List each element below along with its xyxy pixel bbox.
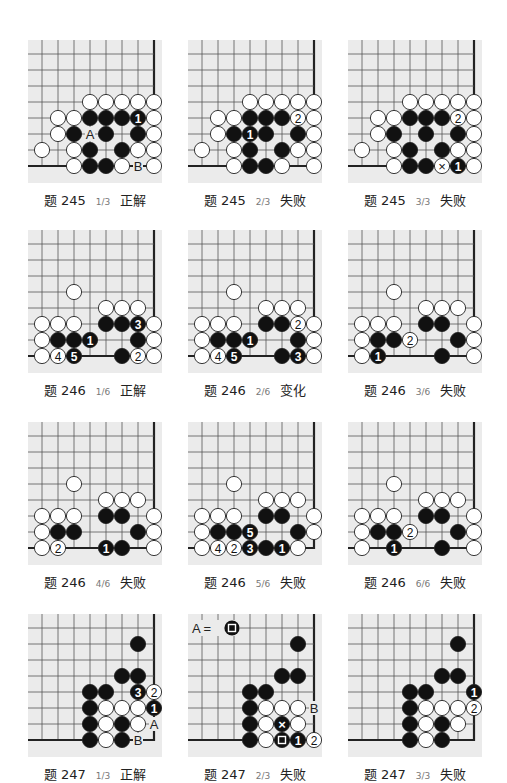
svg-text:1: 1 [87, 334, 94, 348]
white-stone [98, 492, 113, 507]
black-stone [434, 316, 449, 331]
black-stone [290, 126, 305, 141]
result-label: 正解 [120, 193, 146, 208]
white-stone [450, 492, 465, 507]
svg-text:5: 5 [247, 526, 254, 540]
svg-text:4: 4 [55, 350, 62, 364]
black-stone [82, 110, 97, 125]
black-stone [98, 316, 113, 331]
black-stone [114, 716, 129, 731]
diagram-caption: 题 2462/6变化 [170, 380, 340, 399]
black-stone [450, 126, 465, 141]
svg-text:1: 1 [247, 128, 254, 142]
white-stone [98, 94, 113, 109]
white-stone: 2 [402, 332, 417, 347]
diagram-fraction: 3/3 [416, 771, 430, 781]
white-stone [274, 94, 289, 109]
white-stone [194, 332, 209, 347]
white-stone [386, 142, 401, 157]
white-stone [130, 300, 145, 315]
black-stone [130, 524, 145, 539]
black-stone [98, 158, 113, 173]
white-stone [466, 348, 481, 363]
diagram-fraction: 1/3 [96, 197, 110, 207]
white-stone: 2 [130, 348, 145, 363]
svg-text:1: 1 [391, 542, 398, 556]
result-label: 失败 [440, 767, 466, 782]
svg-text:5: 5 [71, 350, 78, 364]
white-stone [114, 94, 129, 109]
black-stone: 3 [130, 684, 145, 699]
board-mark-label: A [86, 127, 95, 142]
black-stone: 3 [242, 540, 257, 555]
black-stone [370, 332, 385, 347]
white-stone [418, 732, 433, 747]
white-stone [354, 332, 369, 347]
black-stone: 1 [290, 732, 305, 747]
black-stone: 1 [242, 332, 257, 347]
white-stone [34, 348, 49, 363]
black-stone [370, 524, 385, 539]
black-stone: 5 [242, 524, 257, 539]
white-stone [274, 492, 289, 507]
black-stone: 1 [466, 684, 481, 699]
svg-text:×: × [438, 159, 446, 174]
black-stone [242, 110, 257, 125]
svg-text:1: 1 [455, 160, 462, 174]
white-stone [210, 316, 225, 331]
black-stone [210, 524, 225, 539]
white-stone [226, 142, 241, 157]
white-stone: 2 [226, 540, 241, 555]
svg-text:5: 5 [231, 350, 238, 364]
black-stone [114, 142, 129, 157]
white-stone [306, 94, 321, 109]
black-stone [258, 508, 273, 523]
white-stone [194, 316, 209, 331]
legend-note: A = [192, 621, 211, 636]
black-stone [274, 110, 289, 125]
black-stone [98, 126, 113, 141]
white-stone [194, 540, 209, 555]
black-stone [434, 716, 449, 731]
black-stone: 3 [290, 348, 305, 363]
diagram-fraction: 3/6 [416, 387, 430, 397]
svg-text:1: 1 [375, 350, 382, 364]
white-stone [306, 524, 321, 539]
white-stone [354, 348, 369, 363]
white-stone [466, 158, 481, 173]
white-stone: 4 [50, 348, 65, 363]
black-stone [274, 668, 289, 683]
white-stone [466, 332, 481, 347]
white-stone [194, 508, 209, 523]
black-stone [386, 524, 401, 539]
white-stone [386, 110, 401, 125]
svg-text:4: 4 [215, 350, 222, 364]
svg-text:1: 1 [295, 734, 302, 748]
white-stone [290, 716, 305, 731]
white-stone [418, 94, 433, 109]
white-stone [50, 316, 65, 331]
black-stone [130, 126, 145, 141]
white-stone [146, 332, 161, 347]
white-stone [354, 508, 369, 523]
svg-text:2: 2 [231, 542, 238, 556]
white-stone [34, 540, 49, 555]
svg-text:2: 2 [311, 734, 318, 748]
white-stone [466, 524, 481, 539]
white-stone [434, 492, 449, 507]
black-stone [98, 508, 113, 523]
black-stone [434, 142, 449, 157]
go-board-diagram: 2×1 [348, 40, 482, 183]
svg-text:1: 1 [151, 702, 158, 716]
result-label: 失败 [280, 193, 306, 208]
diagram-fraction: 1/6 [96, 387, 110, 397]
result-label: 变化 [280, 383, 306, 398]
result-label: 失败 [440, 193, 466, 208]
go-board-diagram: 31452 [28, 230, 162, 373]
white-stone [146, 348, 161, 363]
white-stone [434, 300, 449, 315]
white-stone [290, 300, 305, 315]
result-label: 失败 [120, 575, 146, 590]
white-stone [306, 126, 321, 141]
black-stone [130, 668, 145, 683]
